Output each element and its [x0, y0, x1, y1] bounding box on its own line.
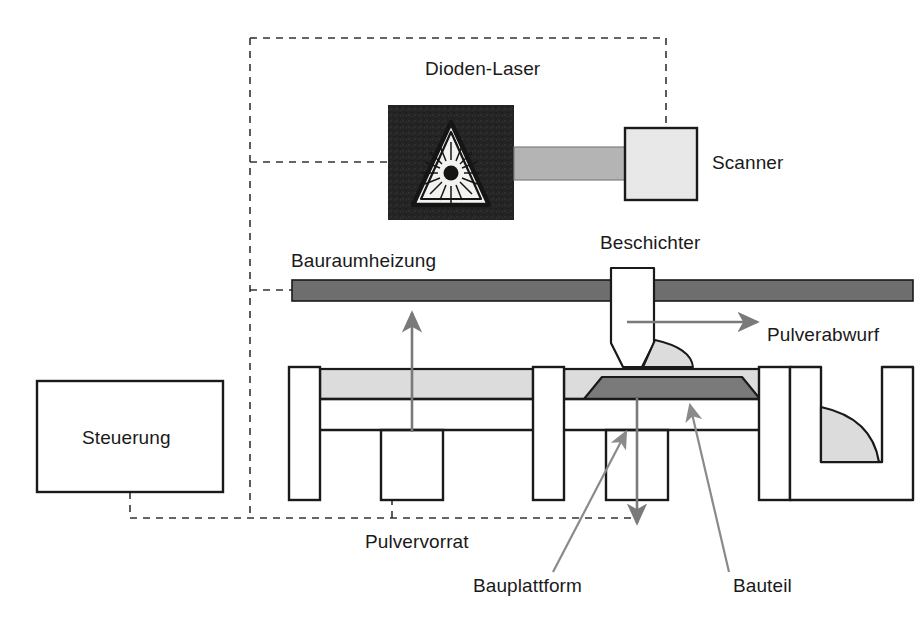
overflow-powder-pile: [821, 407, 879, 462]
piston-motion-arrows: [412, 313, 637, 523]
frame-rail-right: [564, 399, 774, 430]
label-control-unit: Steuerung: [82, 427, 171, 449]
laser-sintering-diagram: Dioden-Laser Scanner Bauraumheizung Besc…: [0, 0, 923, 625]
part-bauteil: [584, 377, 760, 399]
label-powder-discharge: Pulverabwurf: [767, 324, 879, 346]
diode-laser-unit: [388, 105, 514, 220]
recoater-hopper: [611, 268, 654, 367]
powder-supply-piston: [381, 430, 443, 500]
laser-scanner-link: [514, 128, 697, 200]
build-chamber-heating-bar: [292, 280, 913, 301]
label-part: Bauteil: [733, 575, 792, 597]
frame-rail-left: [320, 399, 533, 430]
frame-left-outer-wall: [289, 367, 320, 500]
label-powder-supply: Pulvervorrat: [365, 531, 469, 553]
heating-bar-left-segment: [292, 280, 611, 301]
scanner-box: [625, 128, 697, 200]
label-build-chamber-heating: Bauraumheizung: [291, 250, 436, 272]
label-diode-laser: Dioden-Laser: [425, 58, 540, 80]
label-build-platform: Bauplattform: [473, 575, 582, 597]
label-scanner: Scanner: [712, 152, 783, 174]
laser-beam-connector: [514, 147, 625, 180]
label-recoater: Beschichter: [600, 232, 700, 254]
heating-bar-right-segment: [654, 280, 913, 301]
frame-middle-wall: [533, 367, 564, 500]
frame-right-wall: [759, 367, 790, 500]
powder-bed-left: [320, 369, 533, 399]
